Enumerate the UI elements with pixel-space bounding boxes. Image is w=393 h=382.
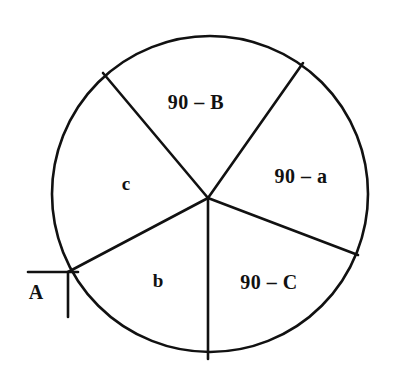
sector-label-top: 90 – B: [168, 91, 224, 113]
sector-label-left: c: [122, 173, 130, 194]
diagram-root: 90 – B 90 – a 90 – C c b A: [0, 0, 393, 382]
vertex-label-a: A: [29, 281, 44, 303]
sector-label-right: 90 – a: [275, 165, 328, 187]
circle-sector-figure: 90 – B 90 – a 90 – C c b A: [0, 0, 393, 382]
sector-label-bottom-right: 90 – C: [240, 271, 297, 293]
sector-label-bottom-left: b: [153, 270, 164, 291]
